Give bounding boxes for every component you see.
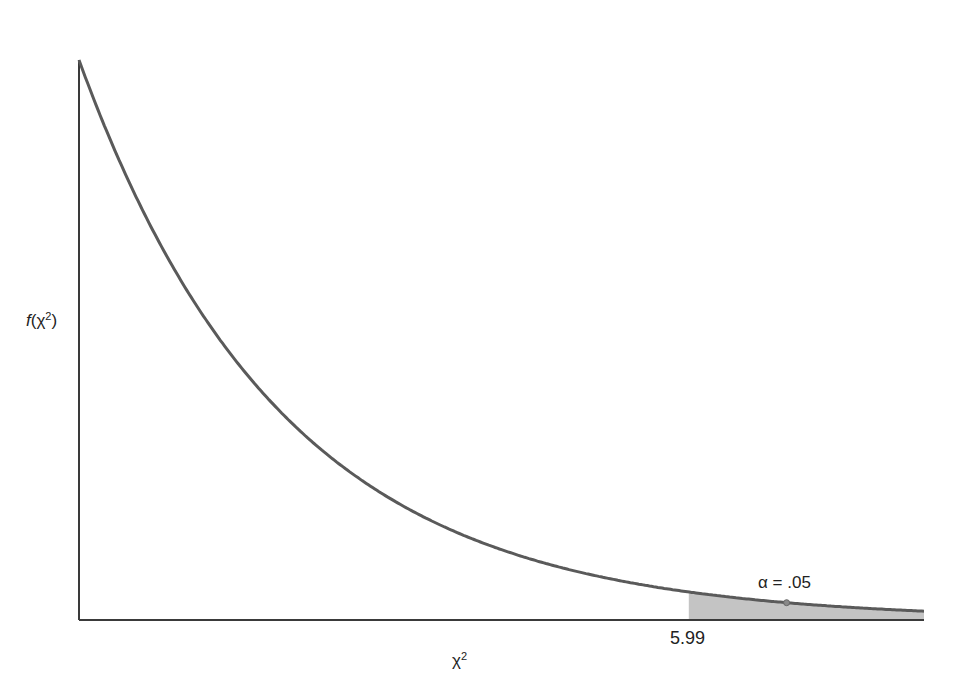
y-axis-label: f(χ2) — [26, 310, 57, 331]
density-curve — [79, 60, 924, 611]
chi-square-chart — [0, 0, 956, 695]
critical-value-label: 5.99 — [670, 628, 705, 649]
alpha-marker — [784, 600, 790, 606]
alpha-label: α = .05 — [758, 573, 811, 593]
x-axis-label: χ2 — [452, 650, 467, 671]
